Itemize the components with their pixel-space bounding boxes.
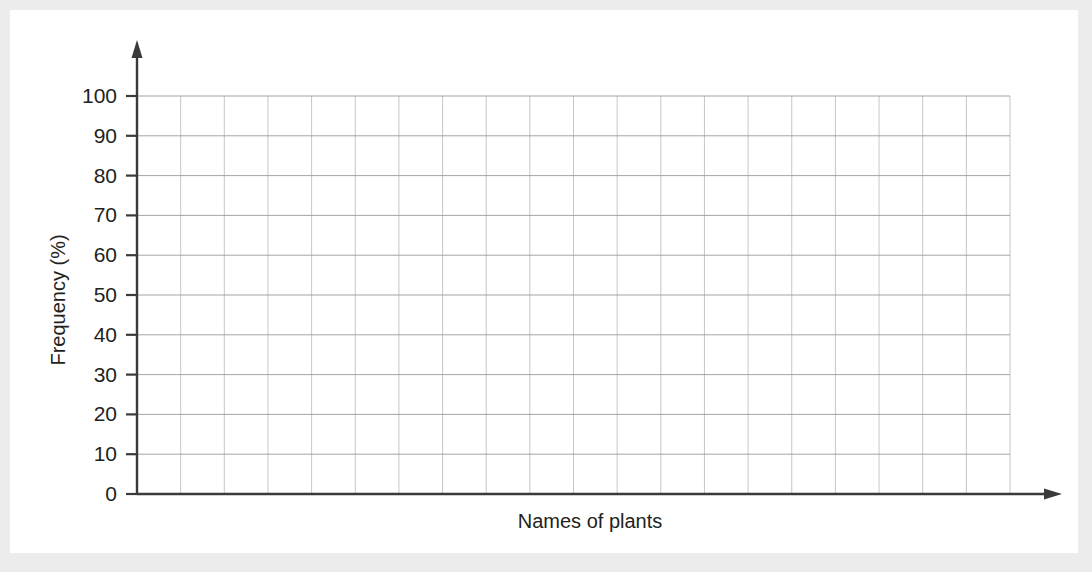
x-axis-title: Names of plants xyxy=(518,510,663,532)
x-axis-arrow-icon xyxy=(1044,489,1062,500)
y-axis-tick-label: 20 xyxy=(94,402,117,425)
y-axis-tick-label: 100 xyxy=(82,84,117,107)
y-axis-tick-label: 50 xyxy=(94,283,117,306)
y-axis-tick-label: 10 xyxy=(94,442,117,465)
page-root: 1009080706050403020100 Names of plants F… xyxy=(0,0,1092,572)
figure-card: 1009080706050403020100 Names of plants F… xyxy=(10,10,1078,553)
y-axis-tick-label: 40 xyxy=(94,323,117,346)
y-axis-tick-label: 30 xyxy=(94,363,117,386)
y-axis-tick-label: 80 xyxy=(94,164,117,187)
y-axis-arrow-icon xyxy=(132,40,143,58)
y-axis-tick-label: 0 xyxy=(105,482,117,505)
blank-bar-chart-grid: 1009080706050403020100 Names of plants F… xyxy=(10,10,1078,553)
y-axis-tick-label: 90 xyxy=(94,124,117,147)
y-axis-title: Frequency (%) xyxy=(47,234,69,365)
y-axis-tick-labels: 1009080706050403020100 xyxy=(82,84,117,505)
chart-canvas: 1009080706050403020100 Names of plants F… xyxy=(10,10,1078,553)
y-axis-tick-label: 60 xyxy=(94,243,117,266)
y-axis-tick-label: 70 xyxy=(94,203,117,226)
